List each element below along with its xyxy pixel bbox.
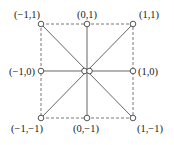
node-label: (1,0) bbox=[138, 66, 159, 78]
node-label: (0,1) bbox=[77, 9, 98, 21]
node-circle bbox=[130, 21, 136, 27]
node-circle bbox=[84, 115, 90, 121]
node-circle bbox=[130, 115, 136, 121]
node-label: (0,−1) bbox=[73, 123, 100, 135]
node-label: (−1,1) bbox=[14, 9, 41, 21]
spoke-line bbox=[87, 24, 133, 71]
spoke-line bbox=[41, 71, 87, 118]
node-circle bbox=[38, 115, 44, 121]
node-circle bbox=[84, 21, 90, 27]
node-circle bbox=[38, 68, 44, 74]
center-node bbox=[82, 68, 93, 74]
spoke-line bbox=[41, 24, 87, 71]
node-label: (1,−1) bbox=[137, 123, 164, 135]
node-circle bbox=[38, 21, 44, 27]
node-label: (−1,−1) bbox=[11, 123, 43, 135]
node-label: (−1,0) bbox=[9, 66, 36, 78]
neighborhood-diagram: (−1,1)(0,1)(1,1)(−1,0)(1,0)(−1,−1)(0,−1)… bbox=[0, 0, 174, 145]
node-label: (1,1) bbox=[139, 9, 160, 21]
spoke-line bbox=[87, 71, 133, 118]
node-circle bbox=[130, 68, 136, 74]
